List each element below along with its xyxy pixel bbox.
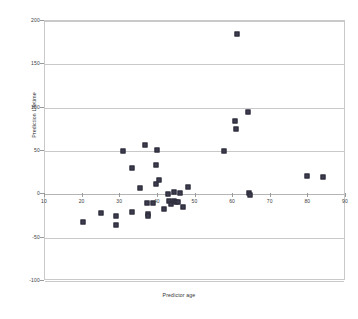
gridline-y-200 [45,21,344,22]
data-point [130,210,135,215]
data-point [177,191,182,196]
y-tick-mark [40,20,44,21]
data-point [320,175,325,180]
x-tick-label: 70 [260,198,280,204]
x-tick-label: 30 [109,198,129,204]
data-point [155,147,160,152]
y-tick-label: -100 [29,277,40,283]
y-tick-label: 100 [31,104,40,110]
data-point [304,174,309,179]
data-point [233,118,238,123]
plot-area [44,20,345,280]
x-tick-label: 50 [185,198,205,204]
data-point [99,211,104,216]
data-point [234,32,239,37]
data-point [221,148,226,153]
data-point [161,206,166,211]
gridline-y-50 [45,151,344,152]
data-point [80,220,85,225]
x-tick-mark [232,193,233,197]
x-tick-label: 90 [335,198,355,204]
y-tick-mark [40,107,44,108]
data-point [142,142,147,147]
y-tick-label: 50 [34,147,40,153]
x-tick-mark [345,193,346,197]
x-tick-mark [119,193,120,197]
x-tick-mark [157,193,158,197]
data-point [176,199,181,204]
data-point [185,185,190,190]
data-point [156,178,161,183]
data-point [172,190,177,195]
x-tick-mark [195,193,196,197]
data-point [146,214,151,219]
x-tick-mark [82,193,83,197]
x-tick-mark [270,193,271,197]
data-point [114,223,119,228]
x-axis-title: Predictor age [0,292,358,298]
y-axis-title: Prediction Lifetime [31,75,37,155]
data-point [246,110,251,115]
x-tick-label: 80 [297,198,317,204]
x-tick-mark [44,193,45,197]
y-tick-label: 150 [31,60,40,66]
gridline-y--50 [45,238,344,239]
data-point [129,166,134,171]
data-point [121,149,126,154]
x-tick-label: 20 [72,198,92,204]
gridline-y-100 [45,108,344,109]
data-point [247,193,252,198]
data-point [165,191,170,196]
data-point [137,186,142,191]
y-tick-label: 200 [31,17,40,23]
x-tick-label: 40 [147,198,167,204]
x-tick-label: 60 [222,198,242,204]
y-tick-label: 0 [37,190,40,196]
scatter-chart: Prediction Lifetime Predictor age 200150… [0,0,358,319]
gridline-y-150 [45,64,344,65]
data-point [181,205,186,210]
data-point [233,127,238,132]
x-tick-mark [307,193,308,197]
y-tick-label: -50 [32,234,40,240]
x-tick-label: 10 [34,198,54,204]
data-point [113,214,118,219]
y-tick-mark [40,237,44,238]
y-tick-mark [40,280,44,281]
data-point [154,162,159,167]
y-tick-mark [40,63,44,64]
y-tick-mark [40,150,44,151]
gridline-y--100 [45,281,344,282]
